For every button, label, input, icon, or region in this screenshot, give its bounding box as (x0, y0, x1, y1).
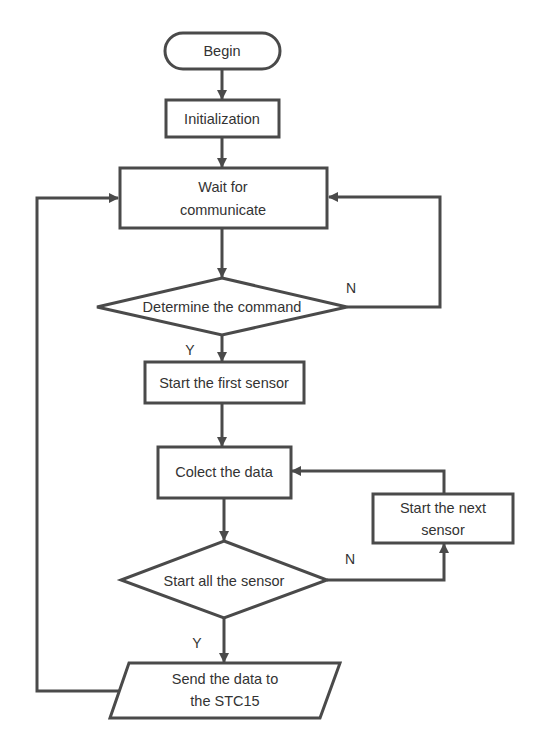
start-first-sensor-label: Start the first sensor (159, 374, 289, 393)
wait-label-line1: Wait for (198, 178, 247, 197)
edge-label-y-determine: Y (185, 342, 194, 358)
next-sensor-label-line1: Start the next (400, 499, 486, 518)
collect-data-label: Colect the data (175, 463, 273, 482)
determine-label: Determine the command (143, 298, 302, 317)
edge-label-y-all-sensor: Y (192, 635, 201, 651)
initialization-label: Initialization (184, 110, 260, 129)
all-sensor-label: Start all the sensor (164, 572, 285, 591)
begin-label: Begin (203, 42, 240, 61)
wait-label-line2: communicate (180, 201, 266, 220)
edge-label-n-all-sensor: N (345, 551, 355, 567)
send-label-line1: Send the data to (172, 670, 278, 689)
send-label-line2: the STC15 (190, 692, 259, 711)
edge-label-n-determine: N (346, 280, 356, 296)
next-sensor-label-line2: sensor (421, 521, 465, 540)
